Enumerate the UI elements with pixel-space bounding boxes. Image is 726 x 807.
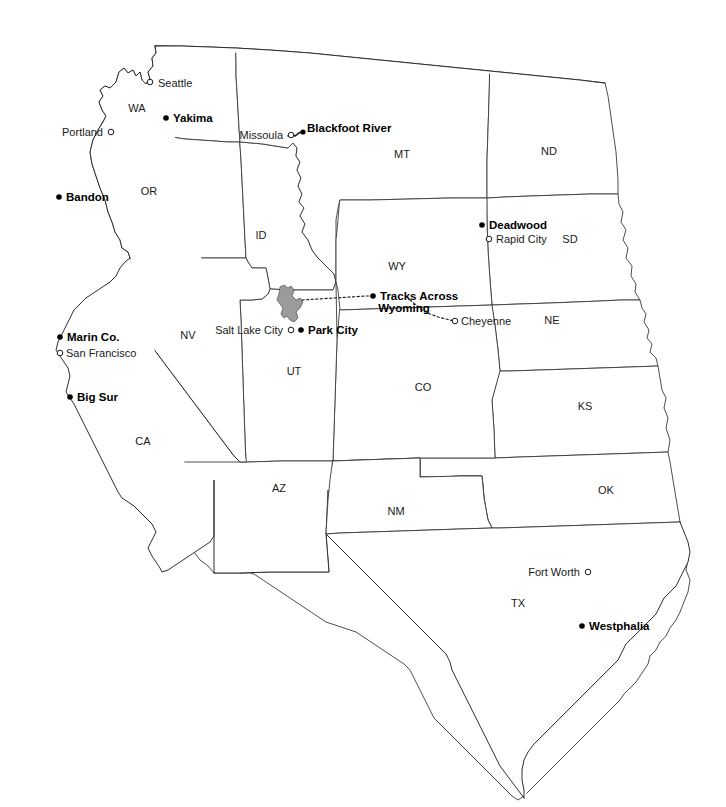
- city-marker-rapid-city[interactable]: [486, 236, 492, 242]
- city-label-fort-worth: Fort Worth: [528, 566, 580, 578]
- route-label-line1: Tracks Across: [380, 290, 458, 302]
- state-label-ne: NE: [544, 314, 559, 326]
- state-label-nm: NM: [387, 505, 404, 517]
- city-marker-yakima[interactable]: [163, 115, 169, 121]
- city-label-rapid-city: Rapid City: [496, 233, 547, 245]
- state-shape-nd: [487, 71, 618, 198]
- city-label-seattle: Seattle: [158, 77, 192, 89]
- state-label-wa: WA: [128, 102, 146, 114]
- state-label-wy: WY: [388, 260, 406, 272]
- city-marker-bandon[interactable]: [56, 194, 62, 200]
- city-marker-westphalia[interactable]: [579, 623, 585, 629]
- city-marker-deadwood[interactable]: [479, 222, 485, 228]
- city-label-san-francisco: San Francisco: [66, 347, 136, 359]
- state-label-tx: TX: [511, 597, 526, 609]
- city-label-missoula: Missoula: [240, 129, 284, 141]
- western-us-map: WA OR ID MT ND SD WY NE NV UT CO KS CA A…: [0, 0, 726, 807]
- city-label-marin-co: Marin Co.: [67, 331, 119, 343]
- state-shape-ks: [492, 366, 670, 458]
- city-marker-fort-worth[interactable]: [585, 569, 591, 575]
- city-label-salt-lake-city: Salt Lake City: [215, 324, 283, 336]
- city-label-blackfoot-river: Blackfoot River: [307, 122, 392, 134]
- city-label-portland: Portland: [62, 126, 103, 138]
- state-label-az: AZ: [272, 482, 286, 494]
- state-label-mt: MT: [394, 148, 410, 160]
- state-label-co: CO: [415, 381, 432, 393]
- city-marker-portland[interactable]: [108, 129, 114, 135]
- city-label-yakima: Yakima: [173, 112, 213, 124]
- city-label-deadwood: Deadwood: [489, 219, 547, 231]
- city-label-big-sur: Big Sur: [77, 391, 118, 403]
- city-marker-salt-lake-city[interactable]: [288, 327, 294, 333]
- state-shape-sd: [487, 194, 640, 305]
- map-container: WA OR ID MT ND SD WY NE NV UT CO KS CA A…: [0, 0, 726, 807]
- state-label-or: OR: [141, 185, 158, 197]
- state-label-ks: KS: [578, 400, 593, 412]
- city-marker-big-sur[interactable]: [67, 394, 73, 400]
- city-label-cheyenne: Cheyenne: [461, 315, 511, 327]
- city-label-westphalia: Westphalia: [589, 620, 650, 632]
- state-boundaries: [90, 46, 690, 800]
- state-label-ca: CA: [135, 435, 151, 447]
- city-label-park-city: Park City: [308, 324, 358, 336]
- state-label-nv: NV: [180, 329, 196, 341]
- state-label-ut: UT: [287, 365, 302, 377]
- city-marker-cheyenne[interactable]: [452, 318, 458, 324]
- state-label-ok: OK: [598, 484, 615, 496]
- city-marker-park-city[interactable]: [298, 327, 304, 333]
- city-marker-blackfoot-river[interactable]: [300, 129, 305, 134]
- state-label-nd: ND: [541, 145, 557, 157]
- route-label-line2: Wyoming: [378, 302, 430, 314]
- state-label-id: ID: [256, 229, 267, 241]
- city-marker-seattle[interactable]: [147, 79, 153, 85]
- city-marker-missoula[interactable]: [288, 132, 294, 138]
- state-shape-ne: [492, 300, 658, 371]
- state-label-sd: SD: [562, 233, 577, 245]
- city-label-bandon: Bandon: [66, 191, 109, 203]
- city-marker-marin-co[interactable]: [57, 334, 63, 340]
- route-marker-tracks-across-wyoming[interactable]: [370, 293, 376, 299]
- city-marker-san-francisco[interactable]: [57, 350, 63, 356]
